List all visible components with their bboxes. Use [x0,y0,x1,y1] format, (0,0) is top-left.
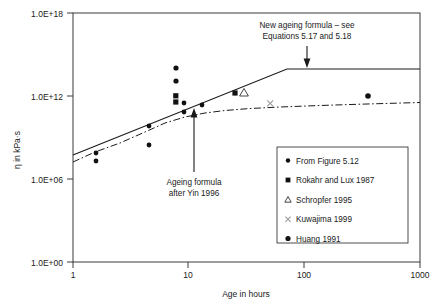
y-tick-labels: 1.0E+18 1.0E+12 1.0E+06 1.0E+00 [31,9,63,268]
legend-label: Kuwajima 1999 [296,215,352,224]
x-tick-labels: 1 10 100 1000 [71,270,430,280]
x-axis-title: Age in hours [222,289,270,299]
data-point [182,101,187,106]
series-kuwajima-1999 [267,100,273,106]
data-point [200,103,205,108]
annotation-yin-line2: after Yin 1996 [169,189,220,198]
annotation-new-ageing-line1: New ageing formula – see [259,21,355,30]
series-schropfer-1995 [240,89,249,97]
annotation-ageing-formula-yin: Ageing formula after Yin 1996 [166,108,222,198]
annotation-new-ageing-line2: Equations 5.17 and 5.18 [263,32,352,41]
data-point [94,159,99,164]
data-point [173,99,178,104]
y-axis-title: η in kPa·s [12,131,22,169]
y-tick-label-1e06: 1.0E+06 [31,175,63,185]
x-tick-label-100: 100 [297,270,311,280]
curve-new-ageing-formula [73,69,420,155]
data-point [173,78,178,83]
data-point [365,93,371,99]
y-tick-label-1e12: 1.0E+12 [31,92,63,102]
series-huang-1991 [365,93,371,99]
data-point [240,89,249,97]
series-from-figure-512 [94,65,205,163]
chart-canvas: 1.0E+18 1.0E+12 1.0E+06 1.0E+00 η in kPa… [0,0,436,304]
legend-item-from-figure-512[interactable]: From Figure 5.12 [286,157,359,166]
y-tick-label-1e18: 1.0E+18 [31,9,63,19]
legend-item-kuwajima-1999[interactable]: Kuwajima 1999 [285,215,352,224]
annotation-yin-line1: Ageing formula [166,178,222,187]
x-tick-label-10: 10 [183,270,193,280]
legend-label: Schropfer 1995 [296,196,352,205]
annotation-new-ageing-formula: New ageing formula – see Equations 5.17 … [259,21,355,68]
data-point [94,151,99,156]
legend-circle-icon [285,236,290,241]
chart-legend: From Figure 5.12 Rokahr and Lux 1987 Sch… [277,147,408,244]
legend-circle-small-icon [286,158,290,162]
data-point [182,110,187,115]
x-tick-label-1: 1 [71,270,76,280]
arrow-down-icon [304,59,311,69]
legend-label: Huang 1991 [296,235,341,244]
data-point [147,143,152,148]
x-tick-label-1000: 1000 [411,270,430,280]
data-point [173,65,178,70]
data-point [173,93,178,98]
y-axis-ticks [67,13,73,262]
legend-item-rokahr-and-lux-1987[interactable]: Rokahr and Lux 1987 [286,176,375,185]
legend-label: Rokahr and Lux 1987 [296,176,375,185]
legend-label: From Figure 5.12 [296,157,359,166]
data-point [232,90,237,95]
figure-container: 1.0E+18 1.0E+12 1.0E+06 1.0E+00 η in kPa… [0,0,436,304]
y-tick-label-1e00: 1.0E+00 [31,258,63,268]
data-point [147,124,152,129]
x-axis-ticks [73,262,420,268]
legend-square-icon [286,178,291,183]
